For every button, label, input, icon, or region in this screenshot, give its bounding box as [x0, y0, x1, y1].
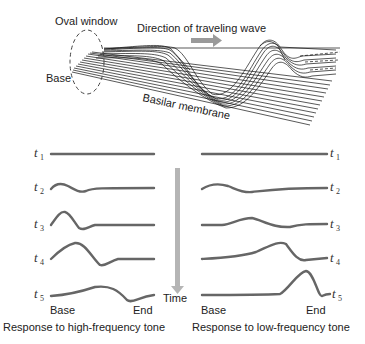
lf-wave-t3 — [202, 218, 327, 227]
hf-wave-t3 — [51, 212, 154, 229]
lf-t1-label: t1 — [330, 145, 340, 162]
svg-text:4: 4 — [40, 258, 44, 267]
low-frequency-panel: t1 t2 t3 t4 t5 Base End Response to low-… — [192, 145, 350, 333]
svg-text:4: 4 — [336, 258, 340, 267]
oval-window-label: Oval window — [55, 15, 117, 27]
lf-t2-label: t2 — [330, 179, 340, 196]
hf-wave-t4 — [51, 243, 154, 265]
t2-label: t2 — [34, 179, 44, 196]
lf-t5-label: t5 — [332, 286, 342, 303]
direction-label: Direction of traveling wave — [137, 22, 266, 34]
hf-wave-t5 — [51, 287, 154, 302]
svg-text:t: t — [34, 250, 38, 265]
lf-wave-t5 — [202, 271, 330, 296]
svg-text:3: 3 — [40, 224, 44, 233]
hf-end-label: End — [133, 304, 153, 316]
svg-text:2: 2 — [336, 187, 340, 196]
lf-t3-label: t3 — [330, 216, 340, 233]
svg-text:5: 5 — [338, 294, 342, 303]
svg-text:1: 1 — [40, 153, 44, 162]
lf-end-label: End — [306, 304, 326, 316]
t4-label: t4 — [34, 250, 44, 267]
svg-text:t: t — [332, 286, 336, 301]
time-arrow-icon — [171, 168, 184, 294]
time-label: Time — [163, 292, 187, 304]
svg-text:5: 5 — [40, 294, 44, 303]
oval-window-ellipse — [70, 30, 104, 94]
direction-arrow-icon — [191, 34, 222, 47]
svg-text:1: 1 — [336, 153, 340, 162]
lf-t4-label: t4 — [330, 250, 340, 267]
svg-text:t: t — [34, 286, 38, 301]
svg-text:2: 2 — [40, 187, 44, 196]
base-label: Base — [46, 72, 71, 84]
t3-label: t3 — [34, 216, 44, 233]
svg-text:t: t — [34, 216, 38, 231]
t5-label: t5 — [34, 286, 44, 303]
hf-caption: Response to high-frequency tone — [3, 321, 165, 333]
svg-text:t: t — [330, 250, 334, 265]
lf-wave-t4 — [202, 243, 327, 260]
basilar-membrane-label: Basilar membrane — [142, 91, 232, 121]
svg-text:t: t — [330, 179, 334, 194]
svg-text:t: t — [34, 179, 38, 194]
hf-base-label: Base — [50, 304, 75, 316]
svg-text:t: t — [330, 145, 334, 160]
high-frequency-panel: t1 t2 t3 t4 t5 Base End Response to high… — [3, 145, 165, 333]
basilar-membrane-diagram: Oval window Direction of traveling wave … — [0, 0, 365, 344]
lf-caption: Response to low-frequency tone — [192, 321, 350, 333]
hf-wave-t2 — [51, 184, 154, 192]
svg-text:t: t — [34, 145, 38, 160]
svg-text:3: 3 — [336, 224, 340, 233]
lf-base-label: Base — [201, 304, 226, 316]
t1-label: t1 — [34, 145, 44, 162]
lf-wave-t2 — [202, 184, 327, 192]
svg-text:t: t — [330, 216, 334, 231]
